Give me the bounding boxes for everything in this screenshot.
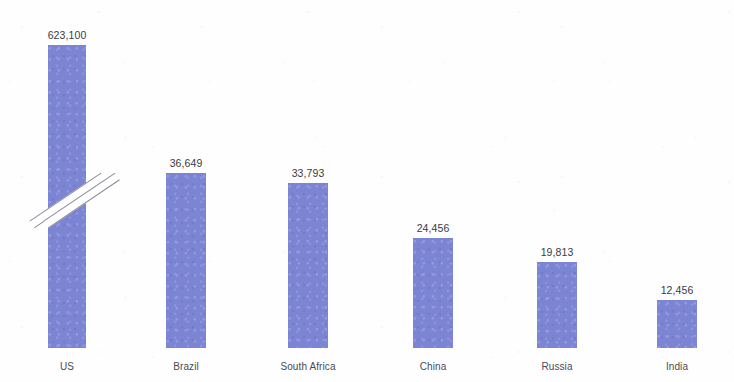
bar-chart: 623,100 US 36,649 Brazil 33,793 South Af… — [0, 0, 734, 382]
bar-us[interactable] — [48, 45, 86, 348]
bar-value-label: 33,793 — [292, 167, 325, 179]
bar-value-label: 12,456 — [661, 284, 694, 296]
bar-group-south-africa: 33,793 South Africa — [288, 183, 328, 348]
bar-value-label: 36,649 — [170, 157, 203, 169]
plot-area: 623,100 US 36,649 Brazil 33,793 South Af… — [0, 0, 734, 382]
category-label-india: India — [666, 361, 688, 372]
bar-group-india: 12,456 India — [657, 300, 697, 348]
bar-group-us: 623,100 US — [48, 45, 86, 348]
bar-group-brazil: 36,649 Brazil — [166, 173, 206, 348]
bar-value-label: 623,100 — [48, 29, 87, 41]
bar-south-africa[interactable] — [288, 183, 328, 348]
bar-russia[interactable] — [537, 262, 577, 348]
bar-group-russia: 19,813 Russia — [537, 262, 577, 348]
category-label-us: US — [60, 361, 74, 372]
bar-brazil[interactable] — [166, 173, 206, 348]
category-label-brazil: Brazil — [173, 361, 199, 372]
bar-value-label: 19,813 — [541, 246, 574, 258]
category-label-china: China — [420, 361, 447, 372]
bar-india[interactable] — [657, 300, 697, 348]
category-label-south-africa: South Africa — [280, 361, 335, 372]
bar-value-label: 24,456 — [417, 222, 450, 234]
bar-group-china: 24,456 China — [413, 238, 453, 348]
bar-china[interactable] — [413, 238, 453, 348]
category-label-russia: Russia — [541, 361, 572, 372]
